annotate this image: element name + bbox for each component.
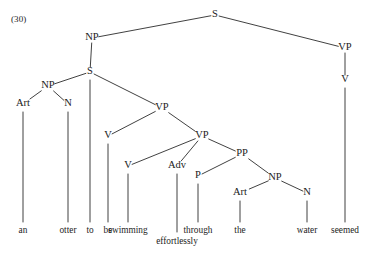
tree-branch-S_top-to-VP_matrix xyxy=(219,16,338,46)
tree-node-VP_matrix: VP xyxy=(338,41,352,52)
tree-branch-S_top-to-NP_subj xyxy=(99,16,211,37)
tree-branch-VP_outer-to-V_be xyxy=(112,111,155,133)
tree-node-V_be: V xyxy=(104,129,112,140)
tree-node-NP_water: NP xyxy=(268,171,282,182)
tree-node-V_swim: V xyxy=(124,159,132,170)
leaf-word-an: an xyxy=(19,225,28,235)
tree-branch-S_embed-to-NP_inner xyxy=(55,73,86,83)
syntax-tree-canvas: SNPVPSVNPArtNVPVVPPPVAdvPNPArtN anottert… xyxy=(0,0,369,255)
tree-node-VP_outer: VP xyxy=(155,101,169,112)
tree-node-P_through: P xyxy=(195,169,201,180)
leaf-word-to: to xyxy=(86,225,94,235)
leaf-word-otter: otter xyxy=(59,225,77,235)
tree-branch-NP_water-to-Art_the xyxy=(249,181,268,189)
leaf-word-effortlessly: effortlessly xyxy=(156,236,198,246)
tree-branch-VP_inner-to-Adv xyxy=(181,141,198,161)
leaf-word-the: the xyxy=(234,225,245,235)
tree-node-NP_subj: NP xyxy=(85,31,99,42)
tree-branch-VP_outer-to-VP_inner xyxy=(169,113,196,132)
tree-branch-NP_inner-to-Art_an xyxy=(30,91,41,99)
tree-node-Art_an: Art xyxy=(16,97,30,108)
leaf-word-water: water xyxy=(297,225,319,235)
tree-node-S_top: S xyxy=(212,8,218,19)
tree-branch-VP_inner-to-PP xyxy=(209,139,236,151)
tree-branch-NP_inner-to-N_otter xyxy=(54,91,64,100)
syntax-tree-figure: (30) SNPVPSVNPArtNVPVVPPPVAdvPNPArtN ano… xyxy=(0,0,369,255)
leaf-word-swimming: swimming xyxy=(108,225,148,235)
tree-node-N_otter: N xyxy=(64,97,72,108)
tree-node-Adv: Adv xyxy=(168,159,187,170)
leaf-word-seemed: seemed xyxy=(331,225,359,235)
tree-branch-PP-to-NP_water xyxy=(249,159,269,173)
tree-branch-NP_water-to-N_water xyxy=(282,181,303,191)
tree-branch-S_embed-to-VP_outer xyxy=(94,74,155,105)
tree-node-VP_inner: VP xyxy=(195,129,209,140)
tree-branch-NP_subj-to-S_embed xyxy=(90,43,91,67)
tree-branch-PP-to-P_through xyxy=(202,157,235,174)
branch-layer xyxy=(30,16,345,191)
tree-node-Art_the: Art xyxy=(233,186,247,197)
tree-node-PP: PP xyxy=(236,147,248,158)
leaf-word-through: through xyxy=(184,225,213,235)
tree-node-NP_inner: NP xyxy=(41,79,55,90)
tree-node-S_embed: S xyxy=(87,65,93,76)
leaf-word-layer: anottertobeswimmingeffortlesslythroughth… xyxy=(19,225,360,246)
tree-node-V_matrix: V xyxy=(341,73,349,84)
tree-node-N_water: N xyxy=(303,186,311,197)
